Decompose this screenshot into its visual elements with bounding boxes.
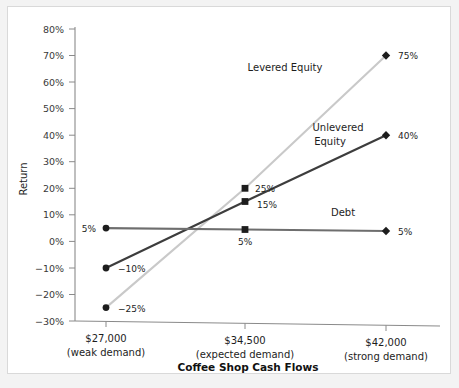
y-axis-title: Return	[18, 162, 29, 195]
x-axis-spine	[75, 321, 440, 326]
y-tick-label-20: 20%	[43, 183, 64, 194]
point-label-unlevered-weak: −10%	[118, 264, 146, 274]
y-tick-label-80: 80%	[43, 24, 64, 35]
series-annotation-debt: Debt	[331, 207, 355, 218]
series-unlevered-equity	[103, 131, 391, 271]
x-tick-label-34500: $34,500	[224, 335, 265, 346]
debt-point-weak	[103, 225, 110, 232]
point-label-levered-expected: 25%	[255, 184, 275, 194]
y-tick-label-10: 10%	[43, 209, 64, 220]
y-tick-label-0: 0%	[49, 236, 64, 247]
unlevered-equity-point-strong	[382, 131, 390, 139]
point-label-debt-strong: 5%	[398, 227, 413, 237]
y-axis-ticks	[69, 29, 75, 321]
point-label-debt-expected: 5%	[238, 237, 253, 247]
debt-point-strong	[382, 227, 390, 235]
x-tick-label-42000: $42,000	[365, 337, 406, 348]
y-tick-label-neg10: −10%	[35, 263, 64, 274]
chart-figure: 80% 70% 60% 50% 40% 30% 20% 10% 0% −10% …	[0, 0, 459, 388]
point-label-debt-weak: 5%	[82, 224, 97, 234]
levered-equity-point-weak	[103, 304, 110, 311]
y-tick-label-50: 50%	[43, 103, 64, 114]
chart-plate: 80% 70% 60% 50% 40% 30% 20% 10% 0% −10% …	[7, 6, 451, 374]
point-label-levered-weak: −25%	[118, 304, 146, 314]
x-tick-label-27000: $27,000	[85, 333, 126, 344]
series-annotation-levered-equity: Levered Equity	[248, 62, 323, 73]
series-annotation-unlevered-equity-line1: Unlevered	[312, 122, 363, 133]
point-label-levered-strong: 75%	[398, 51, 418, 61]
x-tick-sublabel-expected: (expected demand)	[196, 349, 294, 360]
y-tick-label-40: 40%	[43, 130, 64, 141]
unlevered-equity-point-weak	[103, 265, 110, 272]
series-levered-equity	[103, 51, 391, 311]
y-tick-label-neg30: −30%	[35, 316, 64, 327]
y-tick-label-30: 30%	[43, 156, 64, 167]
y-tick-label-neg20: −20%	[35, 289, 64, 300]
x-tick-sublabel-strong: (strong demand)	[344, 351, 428, 362]
x-tick-sublabel-weak: (weak demand)	[67, 347, 145, 358]
y-tick-label-70: 70%	[43, 50, 64, 61]
series-annotation-unlevered-equity-line2: Equity	[314, 136, 346, 147]
x-axis-title: Coffee Shop Cash Flows	[178, 361, 319, 373]
point-label-unlevered-expected: 15%	[257, 200, 277, 210]
debt-point-expected	[242, 226, 249, 233]
levered-equity-point-expected	[242, 185, 249, 192]
return-vs-cashflow-chart: 80% 70% 60% 50% 40% 30% 20% 10% 0% −10% …	[8, 7, 450, 373]
series-debt	[103, 225, 391, 235]
y-tick-label-60: 60%	[43, 77, 64, 88]
unlevered-equity-point-expected	[242, 198, 249, 205]
levered-equity-line	[106, 56, 386, 308]
point-label-unlevered-strong: 40%	[398, 131, 418, 141]
